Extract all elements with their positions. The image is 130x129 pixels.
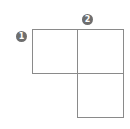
top-right-square	[77, 29, 124, 74]
marker-2: 2	[82, 14, 93, 25]
top-left-square	[32, 29, 78, 74]
bottom-right-square	[77, 73, 124, 118]
marker-1: 1	[16, 31, 27, 42]
